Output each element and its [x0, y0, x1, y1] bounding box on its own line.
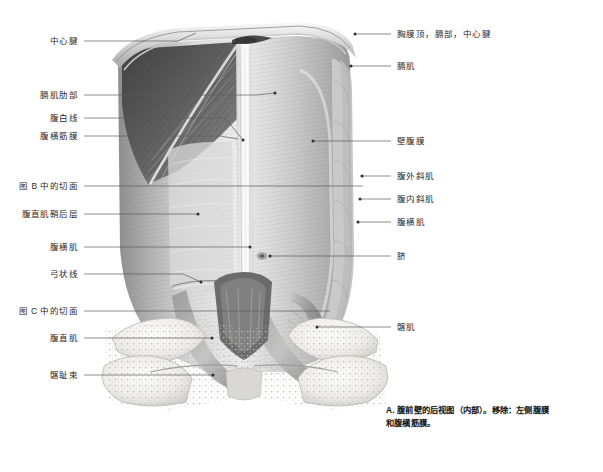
leader-dot-umbilicus [269, 255, 272, 258]
label-transversus-abdominis-r: 腹横肌 [397, 217, 425, 228]
leader-dot-iliopubic-tract [212, 374, 215, 377]
leader-dot-rectus-sheath-post-layer [197, 213, 200, 216]
leader-dot-diaphragm [350, 65, 353, 68]
rectus-sheath-posterior [168, 142, 234, 293]
label-internal-oblique: 腹内斜肌 [397, 194, 435, 205]
leader-dot-transversus-abdominis-r [357, 221, 360, 224]
leader-dot-iliacus [316, 326, 319, 329]
label-pleural-cupula-diaphragm: 胸膜顶，膈部，中心腱 [397, 29, 491, 40]
label-arcuate-line: 弓状线 [50, 269, 78, 280]
leader-dot-linea-alba [242, 139, 245, 142]
leader-dot-parietal-peritoneum [312, 140, 315, 143]
caption-line-1: A. 腹前壁的后视图（内部）。移除：左侧腹膜 [386, 405, 549, 415]
leader-dot-internal-oblique [359, 198, 362, 201]
label-diaphragm-costal-part: 膈肌肋部 [40, 90, 78, 101]
leader-dot-diaphragm-costal-part [274, 92, 277, 95]
label-external-oblique: 腹外斜肌 [397, 171, 435, 182]
label-rectus-abdominis: 腹直肌 [50, 333, 78, 344]
label-transversus-abdominis-l: 腹横肌 [50, 242, 78, 253]
label-parietal-peritoneum: 壁腹膜 [397, 136, 425, 147]
label-diaphragm: 膈肌 [397, 61, 416, 72]
label-umbilicus: 脐 [397, 251, 406, 262]
caption-line-2: 和腹横筋膜。 [386, 418, 435, 428]
label-section-plane-b: 图 B 中的切面 [19, 181, 78, 192]
leader-dot-arcuate-line [200, 281, 203, 284]
figure-caption: A. 腹前壁的后视图（内部）。移除：左侧腹膜 和腹横筋膜。 [386, 404, 586, 429]
label-rectus-sheath-post-layer: 腹直肌鞘后层 [22, 209, 78, 220]
abdominal-wall-illustration [0, 0, 603, 472]
leader-dot-external-oblique [361, 175, 364, 178]
leader-dot-pleural-cupula-diaphragm [354, 33, 357, 36]
label-iliacus: 髂肌 [397, 322, 416, 333]
umbilicus-mark [257, 252, 268, 260]
anatomy-figure: 中心腱膈肌肋部腹白线腹横筋膜图 B 中的切面腹直肌鞘后层腹横肌弓状线图 C 中的… [0, 0, 603, 472]
label-section-plane-c: 图 C 中的切面 [19, 306, 78, 317]
label-iliopubic-tract: 髂耻束 [50, 370, 78, 381]
label-transversalis-fascia: 腹横筋膜 [40, 131, 78, 142]
label-linea-alba: 腹白线 [50, 113, 78, 124]
leader-dot-rectus-abdominis [211, 337, 214, 340]
label-central-tendon: 中心腱 [50, 36, 78, 47]
leader-dot-transversus-abdominis-l [249, 246, 252, 249]
